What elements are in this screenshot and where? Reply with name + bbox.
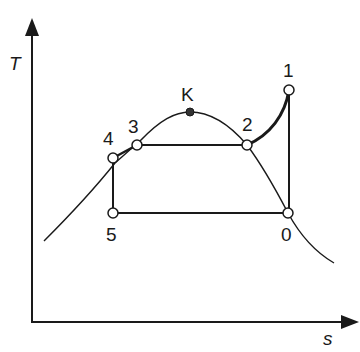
point-1-label: 1 xyxy=(283,60,294,81)
critical-point-label: K xyxy=(181,84,194,105)
ts-diagram: T s 1 2 3 4 5 0 K xyxy=(0,0,360,352)
point-4-marker xyxy=(108,153,118,163)
critical-point-marker xyxy=(186,108,194,116)
y-axis-label: T xyxy=(9,53,22,74)
cycle xyxy=(113,90,289,213)
process-1-2 xyxy=(247,90,289,145)
point-0-marker xyxy=(283,208,293,218)
point-0-label: 0 xyxy=(281,224,292,245)
point-5-marker xyxy=(108,208,118,218)
y-axis-arrow-icon xyxy=(25,18,39,36)
point-2-marker xyxy=(242,140,252,150)
x-axis-arrow-icon xyxy=(341,315,359,329)
point-5-label: 5 xyxy=(106,224,117,245)
point-1-marker xyxy=(284,85,294,95)
axes xyxy=(25,18,359,329)
markers xyxy=(108,85,294,218)
point-3-label: 3 xyxy=(128,116,139,137)
point-3-marker xyxy=(132,140,142,150)
point-2-label: 2 xyxy=(242,114,253,135)
x-axis-label: s xyxy=(323,328,333,349)
point-4-label: 4 xyxy=(103,128,114,149)
